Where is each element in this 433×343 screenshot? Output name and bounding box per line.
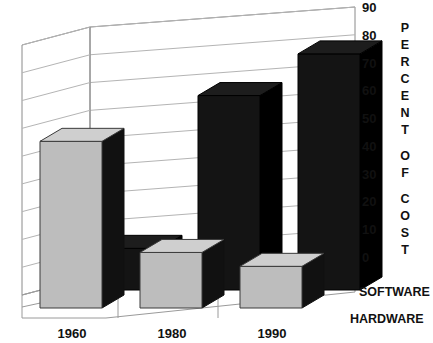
y-axis-title-char-2: R (400, 55, 409, 69)
y-tick-0: 0 (362, 250, 369, 265)
y-axis-title-char-8: O (400, 149, 410, 163)
y-tick-50: 50 (362, 111, 376, 126)
x-category-label-1990: 1990 (258, 326, 287, 341)
y-tick-70: 70 (362, 56, 376, 71)
y-axis-title-char-13: S (401, 226, 409, 240)
series-label-hardware: HARDWARE (350, 312, 424, 326)
y-axis-title-char-9: F (401, 166, 409, 180)
series-label-software: SOFTWARE (359, 285, 430, 299)
left-gridline-90 (22, 27, 90, 45)
y-axis-title-char-11: C (400, 192, 409, 206)
bar-hardware-1990-front (240, 266, 302, 308)
y-axis-title-char-4: E (401, 89, 409, 103)
left-gridline-60 (22, 110, 90, 128)
y-axis-title-char-1: E (401, 38, 409, 52)
x-category-label-1980: 1980 (158, 326, 187, 341)
y-axis-title-char-3: C (400, 72, 409, 86)
chart-container: 9080706050403020100 196019801990 SOFTWAR… (0, 0, 433, 343)
x-category-label-1960: 1960 (58, 326, 87, 341)
y-axis-title-char-0: P (401, 21, 409, 35)
y-axis-title: PERCENTOFCOST (400, 21, 410, 257)
series-row-labels: SOFTWARE HARDWARE (350, 285, 430, 326)
gridline-90 (90, 7, 355, 27)
x-axis-category-labels: 196019801990 (58, 326, 287, 341)
bar-hardware-1960-side (102, 128, 124, 308)
y-tick-20: 20 (362, 194, 376, 209)
bar-chart-3d: 9080706050403020100 196019801990 SOFTWAR… (0, 0, 433, 343)
bar-hardware-1960-front (40, 141, 102, 308)
bars-group (40, 41, 382, 308)
y-tick-40: 40 (362, 139, 376, 154)
y-axis-title-char-12: O (400, 209, 410, 223)
y-tick-30: 30 (362, 167, 376, 182)
y-tick-10: 10 (362, 222, 376, 237)
y-tick-90: 90 (362, 0, 376, 15)
y-tick-60: 60 (362, 83, 376, 98)
y-axis-title-char-6: T (401, 123, 409, 137)
left-gridline-70 (22, 83, 90, 101)
bar-hardware-1980-front (140, 252, 202, 308)
y-tick-80: 80 (362, 28, 376, 43)
y-axis-title-char-14: T (401, 243, 409, 257)
left-gridline-80 (22, 55, 90, 73)
y-axis-title-char-5: N (400, 106, 409, 120)
